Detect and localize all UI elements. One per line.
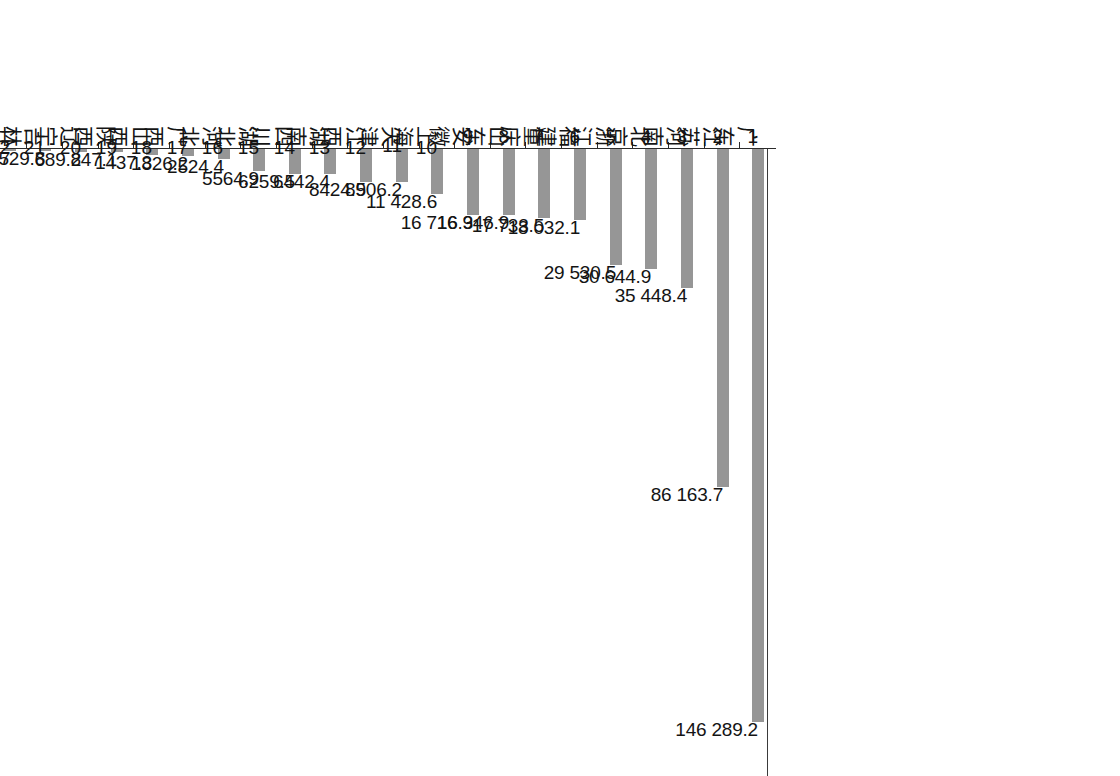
bar-slot: 6442.4 [313, 149, 349, 776]
bar-slot: 8506.2 [384, 149, 420, 776]
figure-page: 020 00040 00060 00080 000100 000120 0001… [0, 0, 1120, 776]
category-name-char: 辽 [58, 126, 81, 147]
bar-slot: 420.7 [0, 149, 27, 776]
category-name-char: 山 [486, 126, 509, 147]
bar-slot: 17 733.5 [527, 149, 563, 776]
category-name-char: 天 [379, 126, 402, 147]
bar-slot: 689.2 [63, 149, 99, 776]
bar-slot: 16 716.3 [455, 149, 491, 776]
bar-slot: 18 032.1 [562, 149, 598, 776]
category-name-char: 重 [521, 126, 544, 147]
bar [503, 149, 515, 215]
category-name-char: 河 [201, 126, 224, 147]
category-name-char: 河 [664, 126, 687, 147]
rotated-chart-wrapper: 020 00040 00060 00080 000100 000120 0001… [0, 0, 776, 776]
bar-slot: 35 448.4 [669, 149, 705, 776]
category-name-char: 福 [557, 126, 580, 147]
bar [610, 149, 622, 265]
bar [467, 149, 479, 215]
category-name-char: 湖 [308, 126, 331, 147]
bar [538, 149, 550, 218]
bar [574, 149, 586, 220]
category-name-char: 北 [628, 126, 651, 147]
bar-slot: 1826.2 [170, 149, 206, 776]
bar [752, 149, 764, 722]
category-name-char: 江 [343, 126, 366, 147]
category-name-char: 湖 [236, 126, 259, 147]
bar-chart: 020 00040 00060 00080 000100 000120 0001… [0, 0, 776, 776]
category-name-char: 江 [700, 126, 723, 147]
bar-slot: 5564.9 [241, 149, 277, 776]
category-name-char: 吉 [22, 126, 45, 147]
category-name-char: 甘 [0, 126, 9, 147]
bar-slot: 11 428.6 [420, 149, 456, 776]
bar-slot: 6259.5 [277, 149, 313, 776]
bar-slot: 8424.9 [348, 149, 384, 776]
bar [681, 149, 693, 288]
bar-slot: 529.8 [27, 149, 63, 776]
bar-slot: 86 163.7 [705, 149, 741, 776]
category-name-char: 广 [165, 126, 188, 147]
bar-slot: 146 289.2 [740, 149, 776, 776]
bar-slot: 847.1 [99, 149, 135, 776]
category-name-char: 山 [129, 126, 152, 147]
category-name-label: 甘肃 [0, 125, 10, 148]
bar-slot: 16 946.9 [491, 149, 527, 776]
category-name-char: 上 [415, 126, 438, 147]
bar-slot: 30 644.9 [633, 149, 669, 776]
category-name-char: 四 [272, 126, 295, 147]
category-name-char: 陕 [94, 126, 117, 147]
bar-slot: 29 530.5 [598, 149, 634, 776]
category-name-char: 安 [450, 126, 473, 147]
bar [717, 149, 729, 487]
bar [645, 149, 657, 269]
bar-slot: 1437.3 [134, 149, 170, 776]
category-name-char: 广 [735, 126, 758, 147]
bar-series: 146 289.286 163.735 448.430 644.929 530.… [0, 149, 776, 776]
bar-slot: 2524.4 [206, 149, 242, 776]
category-name-char: 浙 [593, 126, 616, 147]
